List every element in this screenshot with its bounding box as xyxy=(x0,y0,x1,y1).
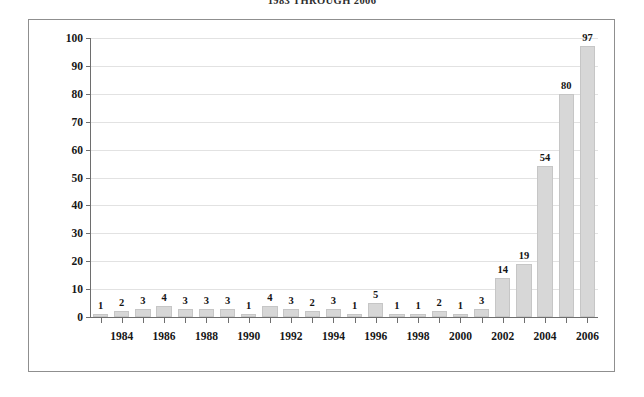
bar-slot[interactable]: 5 xyxy=(365,38,386,317)
y-axis-tick xyxy=(86,317,90,318)
bar[interactable] xyxy=(93,314,108,317)
y-axis-label: 100 xyxy=(66,32,83,44)
bar[interactable] xyxy=(453,314,468,317)
bar-slot[interactable]: 54 xyxy=(535,38,556,317)
bar-value-label: 3 xyxy=(175,295,196,306)
bar-value-label: 80 xyxy=(556,80,577,91)
bar-value-label: 97 xyxy=(577,32,598,43)
x-axis-tick xyxy=(291,318,292,323)
x-axis-tick xyxy=(503,318,504,323)
x-axis-tick xyxy=(164,318,165,323)
bar[interactable] xyxy=(135,309,150,317)
bar[interactable] xyxy=(220,309,235,317)
bar[interactable] xyxy=(389,314,404,317)
bar-value-label: 2 xyxy=(429,297,450,308)
x-axis-label: 2004 xyxy=(534,330,557,342)
bar-slot[interactable]: 14 xyxy=(492,38,513,317)
y-axis-label: 30 xyxy=(72,227,84,239)
x-axis-label: 2002 xyxy=(491,330,514,342)
bar-slot[interactable]: 1 xyxy=(386,38,407,317)
y-axis-label: 60 xyxy=(72,144,84,156)
bar-slot[interactable]: 1 xyxy=(344,38,365,317)
bar-value-label: 3 xyxy=(196,295,217,306)
x-axis-tick xyxy=(524,318,525,323)
bar-slot[interactable]: 1 xyxy=(450,38,471,317)
bar-slot[interactable]: 97 xyxy=(577,38,598,317)
bar-slot[interactable]: 1 xyxy=(408,38,429,317)
bar-value-label: 2 xyxy=(302,297,323,308)
bar[interactable] xyxy=(516,264,531,317)
bar-value-label: 1 xyxy=(450,300,471,311)
x-axis-tick xyxy=(376,318,377,323)
bar-value-label: 1 xyxy=(408,300,429,311)
x-axis-label: 1992 xyxy=(280,330,303,342)
bar-value-label: 3 xyxy=(281,295,302,306)
x-axis-tick xyxy=(228,318,229,323)
bar-slot[interactable]: 4 xyxy=(154,38,175,317)
bar-slot[interactable]: 1 xyxy=(238,38,259,317)
bar-value-label: 1 xyxy=(344,300,365,311)
y-axis-label: 0 xyxy=(77,311,83,323)
bar[interactable] xyxy=(114,311,129,317)
x-axis-tick xyxy=(587,318,588,323)
bar[interactable] xyxy=(241,314,256,317)
x-axis-tick xyxy=(185,318,186,323)
bar-slot[interactable]: 4 xyxy=(259,38,280,317)
plot-area: 0102030405060708090100 12343331432315112… xyxy=(90,38,598,317)
bar[interactable] xyxy=(495,278,510,317)
bar-slot[interactable]: 3 xyxy=(323,38,344,317)
bar-slot[interactable]: 3 xyxy=(217,38,238,317)
y-axis-label: 10 xyxy=(72,283,84,295)
report-title: 1983 THROUGH 2006 xyxy=(0,0,644,6)
bar[interactable] xyxy=(262,306,277,317)
bar-slot[interactable]: 3 xyxy=(175,38,196,317)
x-axis-tick xyxy=(418,318,419,323)
x-axis-tick xyxy=(397,318,398,323)
bar[interactable] xyxy=(283,309,298,317)
bar[interactable] xyxy=(199,309,214,317)
chart-frame: 0102030405060708090100 12343331432315112… xyxy=(28,19,615,372)
x-axis-tick xyxy=(143,318,144,323)
bar[interactable] xyxy=(474,309,489,317)
x-axis-line xyxy=(90,317,598,318)
bar-slot[interactable]: 3 xyxy=(132,38,153,317)
x-axis-label: 1984 xyxy=(110,330,133,342)
bar[interactable] xyxy=(410,314,425,317)
bar[interactable] xyxy=(368,303,383,317)
bar-slot[interactable]: 3 xyxy=(471,38,492,317)
x-axis-tick xyxy=(460,318,461,323)
bar[interactable] xyxy=(326,309,341,317)
bar[interactable] xyxy=(432,311,447,317)
x-axis-tick xyxy=(482,318,483,323)
bar[interactable] xyxy=(305,311,320,317)
bar-slot[interactable]: 2 xyxy=(111,38,132,317)
y-axis-label: 50 xyxy=(72,172,84,184)
bar-slot[interactable]: 2 xyxy=(429,38,450,317)
bar-value-label: 19 xyxy=(513,250,534,261)
x-axis-label: 1996 xyxy=(364,330,387,342)
bar-slot[interactable]: 3 xyxy=(281,38,302,317)
bar-value-label: 4 xyxy=(259,292,280,303)
bar[interactable] xyxy=(580,46,595,317)
bar[interactable] xyxy=(156,306,171,317)
bar[interactable] xyxy=(347,314,362,317)
bar-slot[interactable]: 3 xyxy=(196,38,217,317)
x-axis-label: 1990 xyxy=(237,330,260,342)
x-axis-tick xyxy=(122,318,123,323)
bar-value-label: 1 xyxy=(386,300,407,311)
x-axis-label: 2006 xyxy=(576,330,599,342)
bar-slot[interactable]: 19 xyxy=(513,38,534,317)
bar-slot[interactable]: 2 xyxy=(302,38,323,317)
bar-value-label: 1 xyxy=(90,300,111,311)
bar-value-label: 3 xyxy=(471,295,492,306)
x-axis-tick xyxy=(566,318,567,323)
bar-value-label: 3 xyxy=(132,295,153,306)
bar-slot[interactable]: 1 xyxy=(90,38,111,317)
bar[interactable] xyxy=(559,94,574,317)
bar[interactable] xyxy=(537,166,552,317)
bar[interactable] xyxy=(178,309,193,317)
bar-value-label: 54 xyxy=(535,152,556,163)
x-axis-label: 2000 xyxy=(449,330,472,342)
bar-slot[interactable]: 80 xyxy=(556,38,577,317)
y-axis-label: 40 xyxy=(72,199,84,211)
